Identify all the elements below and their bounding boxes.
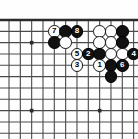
go-stone-white [59, 36, 72, 49]
go-diagram: 78524316 [0, 0, 138, 139]
go-stone-move-number: 8 [75, 27, 79, 35]
star-point [30, 41, 34, 45]
go-stone-move-number: 3 [75, 61, 79, 69]
go-stone-black-move-8: 8 [71, 25, 84, 38]
go-stone-move-number: 1 [97, 61, 101, 69]
star-point [98, 109, 102, 113]
go-stone-black-move-4: 4 [127, 48, 138, 61]
star-point [30, 109, 34, 113]
go-stone-black-move-6: 6 [116, 59, 129, 72]
go-stone-black [105, 70, 118, 83]
go-stone-move-number: 2 [86, 49, 90, 57]
go-stone-white-move-3: 3 [71, 59, 84, 72]
go-stone-move-number: 5 [75, 49, 79, 57]
go-stone-move-number: 7 [52, 27, 56, 35]
go-stone-move-number: 6 [120, 61, 124, 69]
go-stone-move-number: 4 [131, 49, 135, 57]
